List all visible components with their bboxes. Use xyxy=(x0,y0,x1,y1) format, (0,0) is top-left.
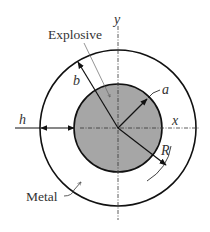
y-axis-label: y xyxy=(112,12,121,27)
b-label: b xyxy=(73,73,80,88)
metal-label: Metal xyxy=(26,189,58,204)
r-label: R xyxy=(160,143,170,158)
a-label: a xyxy=(162,82,169,97)
h-label: h xyxy=(19,112,26,127)
cylinder-cross-section-diagram: Explosive Metal b a h R x y xyxy=(0,0,210,232)
explosive-label: Explosive xyxy=(48,27,102,42)
x-axis-label: x xyxy=(171,113,179,128)
